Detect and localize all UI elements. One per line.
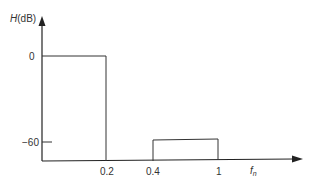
y-axis-arrow-icon — [39, 16, 46, 26]
y-tick-neg60: −60 — [22, 137, 39, 148]
y-axis-label: H(dB) — [10, 13, 36, 24]
x-axis — [42, 159, 294, 161]
x-tick-1: 1 — [216, 166, 222, 177]
x-tick-0-2: 0.2 — [100, 166, 114, 177]
passband-region — [42, 56, 106, 161]
x-axis-arrow-icon — [292, 156, 303, 163]
filter-spec-diagram: H(dB) 0 −60 0.2 0.4 1 fn — [0, 0, 313, 182]
stopband-region — [153, 139, 218, 161]
x-tick-0-4: 0.4 — [146, 166, 160, 177]
y-tick-0: 0 — [29, 51, 35, 62]
x-axis-label: fn — [250, 165, 257, 177]
